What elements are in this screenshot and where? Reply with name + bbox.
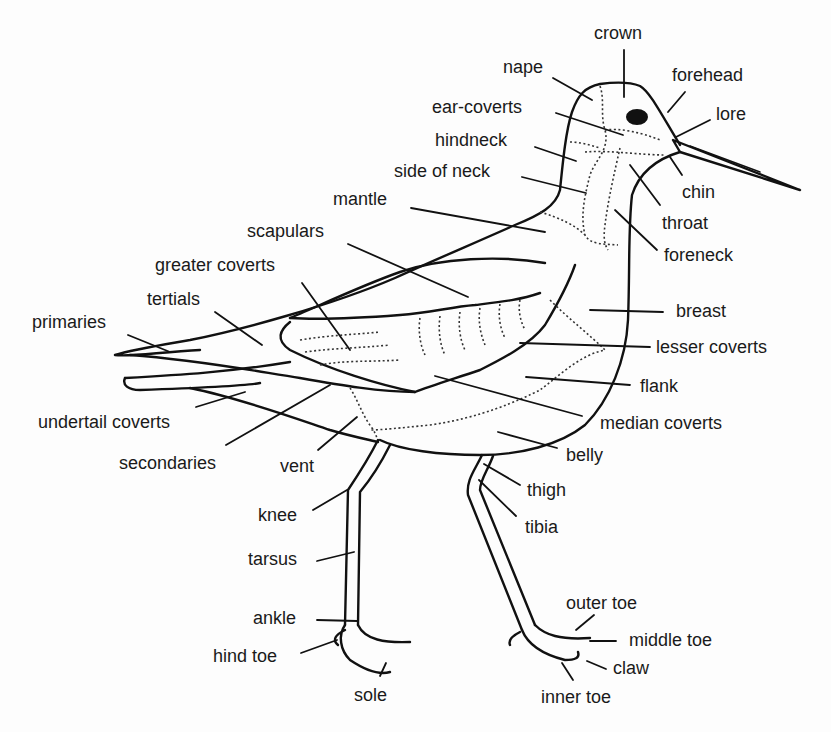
label-primaries: primaries [32, 313, 106, 331]
bird-eye [626, 109, 648, 125]
label-nape: nape [503, 58, 543, 76]
label-ear-coverts: ear-coverts [432, 98, 522, 116]
feather-tract-head [583, 86, 618, 245]
label-flank: flank [640, 377, 678, 395]
label-lesser-coverts: lesser coverts [656, 338, 767, 356]
left-foot [335, 625, 410, 673]
feather-tract-side-neck [540, 148, 620, 250]
label-foreneck: foreneck [664, 246, 733, 264]
scapular-edge [290, 259, 545, 318]
label-chin: chin [682, 183, 715, 201]
label-greater-coverts: greater coverts [155, 256, 275, 274]
label-tibia: tibia [525, 518, 558, 536]
undertail-outline [190, 388, 378, 442]
wing-covert-edge [290, 293, 540, 319]
label-scapulars: scapulars [247, 222, 324, 240]
label-undertail-coverts: undertail coverts [38, 413, 170, 431]
label-hind-toe: hind toe [213, 647, 277, 665]
greater-covert-edge [281, 322, 415, 392]
label-middle-toe: middle toe [629, 631, 712, 649]
right-foot [509, 625, 590, 660]
label-crown: crown [594, 24, 642, 42]
label-knee: knee [258, 506, 297, 524]
label-belly: belly [566, 446, 603, 464]
label-sole: sole [354, 686, 387, 704]
label-ankle: ankle [253, 609, 296, 627]
label-forehead: forehead [672, 66, 743, 84]
label-thigh: thigh [527, 481, 566, 499]
left-leg [345, 440, 390, 625]
label-tarsus: tarsus [248, 550, 297, 568]
wing-feather-marks [300, 300, 525, 365]
label-lore: lore [716, 105, 746, 123]
label-secondaries: secondaries [119, 454, 216, 472]
bird-topography-diagram: crown nape forehead ear-coverts lore hin… [0, 0, 831, 732]
label-hindneck: hindneck [435, 131, 507, 149]
label-median-coverts: median coverts [600, 414, 722, 432]
feather-tract-vent [350, 388, 378, 440]
bird-illustration [0, 0, 831, 732]
label-throat: throat [662, 214, 708, 232]
bird-front-outline [380, 152, 680, 455]
label-side-of-neck: side of neck [394, 162, 490, 180]
label-mantle: mantle [333, 190, 387, 208]
label-tertials: tertials [147, 290, 200, 308]
right-leg [468, 455, 535, 630]
label-outer-toe: outer toe [566, 594, 637, 612]
label-claw: claw [613, 659, 649, 677]
label-vent: vent [280, 457, 314, 475]
label-inner-toe: inner toe [541, 688, 611, 706]
label-breast: breast [676, 302, 726, 320]
